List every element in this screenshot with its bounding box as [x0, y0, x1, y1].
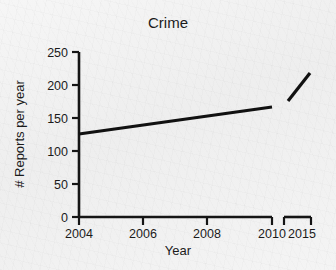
chart-title: Crime: [148, 14, 188, 31]
x-tick-label-2008: 2008: [193, 227, 221, 241]
x-axis-label: Year: [165, 243, 192, 258]
y-tick-label-150: 150: [47, 112, 68, 126]
y-tick-label-200: 200: [47, 79, 68, 93]
data-line-main-trend: [79, 107, 272, 134]
data-line-2015-segment: [288, 73, 310, 101]
chart-svg: Crime # Reports per year Year 250 200 15…: [0, 0, 336, 270]
crime-line-chart: Crime # Reports per year Year 250 200 15…: [0, 0, 336, 270]
x-tick-label-2004: 2004: [65, 227, 93, 241]
x-tick-label-2006: 2006: [129, 227, 157, 241]
y-tick-label-50: 50: [54, 178, 68, 192]
y-tick-label-0: 0: [61, 211, 68, 225]
y-axis-label: # Reports per year: [12, 80, 27, 188]
x-tick-label-2015: 2015: [288, 227, 316, 241]
y-tick-label-250: 250: [47, 46, 68, 60]
y-tick-label-100: 100: [47, 145, 68, 159]
x-tick-label-2010: 2010: [258, 227, 286, 241]
